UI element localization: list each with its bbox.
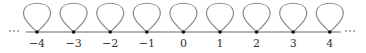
ellipsis-right: ⋯ [344,24,356,38]
vertex-label: 0 [180,37,187,50]
integer-loop-graph: −4−3−2−101234 ⋯ ⋯ [0,0,366,53]
vertex-label: −3 [65,37,81,50]
vertex-node [255,30,259,34]
vertex-node [145,30,149,34]
vertex-node [108,30,112,34]
vertex-labels: −4−3−2−101234 [29,37,333,50]
vertex-label: 1 [217,37,224,50]
self-loop-edge [316,3,343,32]
ellipsis-left: ⋯ [8,24,20,38]
self-loop-edge [97,3,124,32]
vertex-label: 4 [326,37,333,50]
vertex-label: −2 [102,37,118,50]
vertex-label: −1 [139,37,155,50]
self-loop-edge [206,3,233,32]
self-loop-edge [133,3,160,32]
self-loop-edge [170,3,197,32]
vertex-node [35,30,39,34]
vertex-label: 2 [253,37,260,50]
self-loop-edge [60,3,87,32]
vertex-node [291,30,295,34]
vertex-node [72,30,76,34]
self-loop-edge [23,3,50,32]
self-loop-edge [243,3,270,32]
vertex-node [182,30,186,34]
vertex-label: −4 [29,37,45,50]
self-loops [23,3,343,32]
vertex-node [328,30,332,34]
vertex-node [218,30,222,34]
self-loop-edge [280,3,307,32]
vertex-label: 3 [290,37,297,50]
